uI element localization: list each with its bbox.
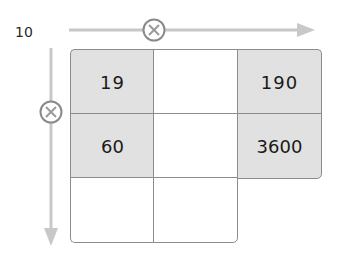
grid-cell-r2-c0: [70, 177, 154, 243]
horizontal-arrow-icon: [69, 23, 315, 37]
grid-cell-r0-c2: 190: [237, 49, 322, 114]
grid-cell-r0-c0: 19: [70, 49, 154, 114]
grid-cell-r1-c2: 3600: [237, 113, 322, 179]
multiply-circle-icon: [144, 20, 165, 41]
grid-cell-r2-c1: [153, 177, 238, 243]
grid-cell-r1-c0: 60: [70, 113, 154, 178]
grid-cell-r1-c1: [153, 113, 238, 178]
grid-cell-r0-c1: [153, 49, 238, 114]
vertical-arrow-icon: [44, 48, 58, 246]
multiply-circle-icon: [41, 102, 62, 123]
